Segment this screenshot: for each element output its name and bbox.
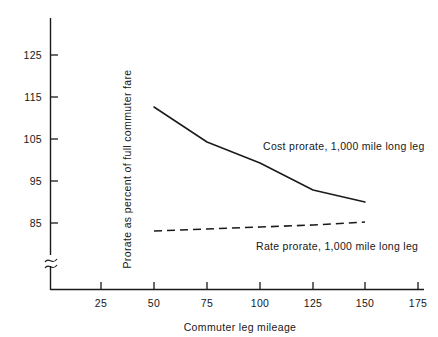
chart-plot-area — [0, 0, 438, 337]
x-tick-label-175: 175 — [409, 297, 427, 309]
x-tick-marks — [101, 282, 418, 290]
annotation-rate-prorate: Rate prorate, 1,000 mile long leg — [256, 240, 418, 252]
y-tick-label-125: 125 — [16, 49, 42, 61]
x-tick-label-75: 75 — [201, 297, 213, 309]
y-axis-title: Prorate as percent of full commuter fare — [121, 44, 133, 294]
x-tick-label-150: 150 — [356, 297, 374, 309]
y-tick-marks — [51, 55, 59, 223]
x-axis-title: Commuter leg mileage — [184, 321, 297, 333]
chart-figure: 125 115 105 95 85 25 50 75 100 125 150 1… — [0, 0, 438, 337]
y-axis-break-icon — [45, 259, 57, 262]
x-tick-label-25: 25 — [95, 297, 107, 309]
y-axis-break-icon-lower — [45, 265, 57, 268]
annotation-cost-prorate: Cost prorate, 1,000 mile long leg — [263, 140, 425, 152]
series-line-cost-prorate — [154, 107, 365, 202]
y-tick-label-85: 85 — [16, 217, 42, 229]
y-tick-label-115: 115 — [16, 91, 42, 103]
y-tick-label-95: 95 — [16, 175, 42, 187]
y-tick-label-105: 105 — [16, 133, 42, 145]
series-line-rate-prorate — [154, 222, 365, 231]
x-tick-label-50: 50 — [148, 297, 160, 309]
x-tick-label-125: 125 — [304, 297, 322, 309]
y-axis-title-text: Prorate as percent of full commuter fare — [121, 44, 133, 294]
x-tick-label-100: 100 — [251, 297, 269, 309]
